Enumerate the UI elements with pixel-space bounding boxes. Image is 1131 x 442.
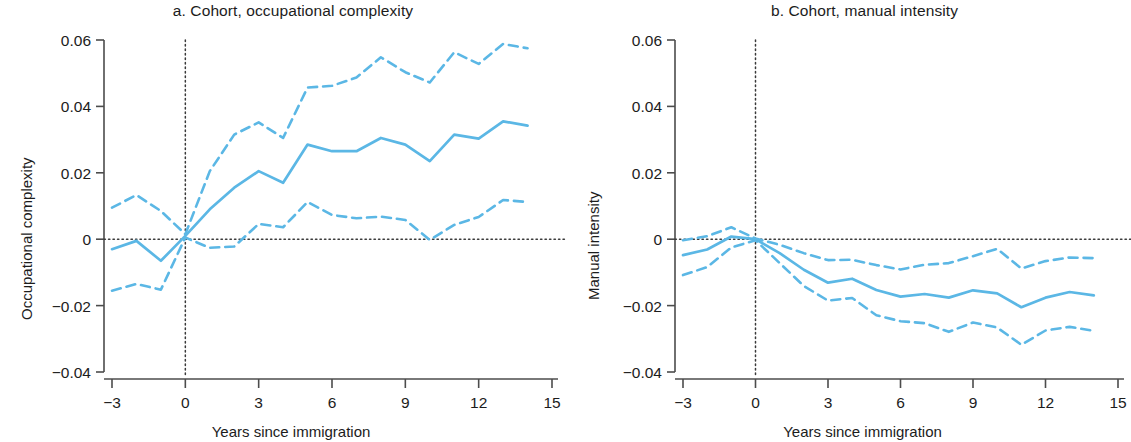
x-tick-label: 12 bbox=[470, 394, 487, 411]
y-tick-label: 0.06 bbox=[61, 32, 91, 49]
x-tick-label: 9 bbox=[401, 394, 410, 411]
y-tick-label: −0.02 bbox=[623, 298, 662, 315]
panel-b-plot: 0.060.040.020−0.02−0.04−303691215 bbox=[566, 0, 1131, 442]
y-tick-label: 0.06 bbox=[632, 32, 662, 49]
x-tick-label: 15 bbox=[1109, 394, 1126, 411]
x-tick-label: 3 bbox=[254, 394, 263, 411]
x-tick-label: 12 bbox=[1037, 394, 1054, 411]
chart-panel-a: a. Cohort, occupational complexity Occup… bbox=[0, 0, 566, 442]
panel-a-x-axis-label: Years since immigration bbox=[8, 423, 574, 440]
y-tick-label: 0.02 bbox=[632, 165, 662, 182]
x-tick-label: 0 bbox=[751, 394, 760, 411]
chart-panel-b: b. Cohort, manual intensity 0.060.040.02… bbox=[566, 0, 1131, 442]
y-tick-label: 0 bbox=[82, 231, 91, 248]
x-tick-label: 9 bbox=[969, 394, 978, 411]
panel-b-x-axis-label: Years since immigration bbox=[580, 423, 1131, 440]
series-upper-ci bbox=[112, 44, 528, 234]
x-tick-label: 6 bbox=[896, 394, 905, 411]
y-tick-label: 0.04 bbox=[632, 98, 663, 115]
x-tick-label: 15 bbox=[543, 394, 560, 411]
x-tick-label: −3 bbox=[674, 394, 692, 411]
x-tick-label: −3 bbox=[103, 394, 121, 411]
y-tick-label: 0.02 bbox=[61, 165, 91, 182]
panel-b-y-axis-label: Manual intensity bbox=[585, 192, 602, 300]
y-tick-label: −0.04 bbox=[52, 364, 92, 381]
x-tick-label: 0 bbox=[181, 394, 190, 411]
y-tick-label: 0.04 bbox=[61, 98, 92, 115]
y-tick-label: −0.04 bbox=[623, 364, 663, 381]
x-tick-label: 3 bbox=[824, 394, 833, 411]
y-tick-label: 0 bbox=[653, 231, 662, 248]
y-tick-label: −0.02 bbox=[52, 298, 91, 315]
figure-container: a. Cohort, occupational complexity Occup… bbox=[0, 0, 1131, 442]
panel-a-plot: 0.060.040.020−0.02−0.04−303691215 bbox=[0, 0, 566, 442]
series-upper-ci bbox=[683, 227, 1094, 269]
x-tick-label: 6 bbox=[328, 394, 337, 411]
series-point-estimate bbox=[683, 237, 1094, 308]
